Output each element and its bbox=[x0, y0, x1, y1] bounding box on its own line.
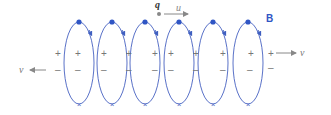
svg-text:×: × bbox=[211, 100, 216, 109]
plus-sign: + bbox=[248, 49, 254, 59]
svg-text:×: × bbox=[110, 100, 115, 109]
svg-text:×: × bbox=[177, 100, 182, 109]
loop-top-dot bbox=[76, 19, 81, 24]
right-velocity-label: v bbox=[300, 48, 304, 58]
plus-sign: + bbox=[193, 49, 199, 59]
minus-sign: – bbox=[55, 65, 61, 75]
charge-label: q bbox=[155, 0, 160, 10]
left-velocity-label: v bbox=[19, 65, 23, 75]
magnetic-field-loops-diagram: × × × × × × bbox=[0, 0, 331, 115]
plus-sign: + bbox=[220, 49, 226, 59]
minus-sign: – bbox=[220, 65, 226, 75]
loop-bottom-cross: × bbox=[77, 100, 82, 109]
minus-sign: – bbox=[268, 63, 274, 73]
field-label: B bbox=[266, 14, 273, 24]
plus-sign: + bbox=[55, 49, 61, 59]
plus-sign: + bbox=[126, 49, 132, 59]
minus-sign: – bbox=[152, 65, 158, 75]
plus-sign: + bbox=[75, 49, 81, 59]
loops-svg: × × × × × × bbox=[0, 0, 331, 115]
plus-sign: + bbox=[268, 49, 274, 59]
minus-sign: – bbox=[126, 65, 132, 75]
minus-sign: – bbox=[101, 65, 107, 75]
minus-sign: – bbox=[247, 65, 253, 75]
charge-velocity-label: u bbox=[176, 3, 181, 13]
charge-dot bbox=[157, 12, 161, 16]
minus-sign: – bbox=[168, 65, 174, 75]
minus-sign: – bbox=[193, 65, 199, 75]
plus-sign: + bbox=[168, 49, 174, 59]
plus-sign: + bbox=[152, 49, 158, 59]
svg-text:×: × bbox=[143, 100, 148, 109]
minus-sign: – bbox=[75, 65, 81, 75]
svg-text:×: × bbox=[246, 100, 251, 109]
plus-sign: + bbox=[101, 49, 107, 59]
